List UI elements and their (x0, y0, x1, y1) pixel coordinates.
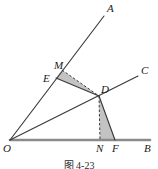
point-label-n: N (95, 142, 104, 154)
point-label-d: D (100, 83, 109, 95)
point-label-c: C (141, 64, 149, 76)
point-label-e: E (42, 72, 50, 84)
point-label-m: M (53, 59, 64, 71)
point-label-o: O (3, 142, 11, 154)
shaded-triangle-emd (56, 70, 99, 96)
geometry-canvas: A B C D E F M N O (0, 0, 158, 169)
point-label-b: B (144, 142, 151, 154)
figure-caption: 图 4-23 (0, 157, 158, 169)
point-label-a: A (106, 2, 114, 14)
geometry-figure: A B C D E F M N O 图 4-23 (0, 0, 158, 169)
point-label-f: F (111, 142, 119, 154)
